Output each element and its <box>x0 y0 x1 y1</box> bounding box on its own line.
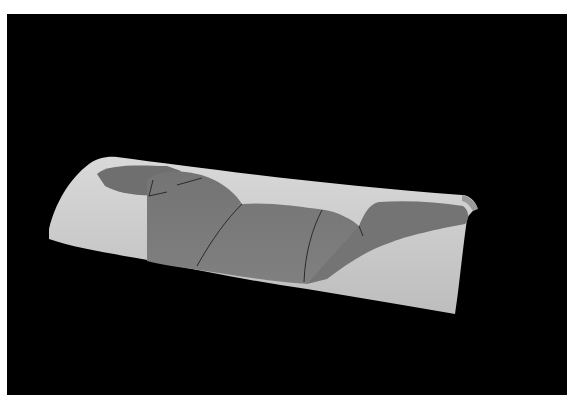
roof-tile-illustration <box>7 14 567 395</box>
photograph: Curved roof tile reconstructed from dark… <box>7 14 567 395</box>
